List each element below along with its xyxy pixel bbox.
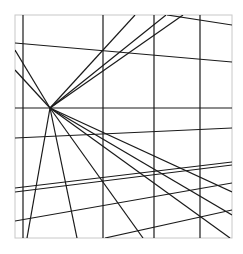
vanishing-ray: [50, 15, 183, 108]
vanishing-ray: [50, 15, 135, 108]
vanishing-ray: [50, 108, 230, 238]
perspective-diagram: [0, 0, 243, 254]
receding-line: [105, 210, 232, 238]
vanishing-ray: [27, 108, 50, 238]
vanishing-ray: [50, 15, 166, 108]
vanishing-ray: [50, 108, 232, 192]
lines-group: [15, 15, 232, 238]
vanishing-ray: [15, 70, 50, 108]
perspective-drawing-svg: [0, 0, 243, 254]
vanishing-ray: [15, 50, 50, 108]
